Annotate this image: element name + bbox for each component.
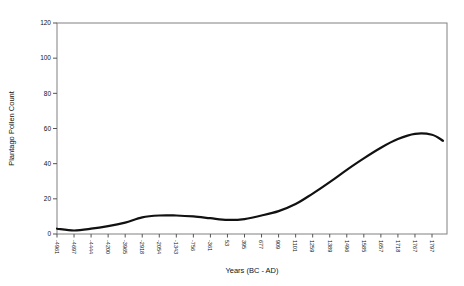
x-tick-label: -4444 [88, 240, 94, 254]
chart-container: 020406080100120-4961-4697-4444-4200-3965… [0, 0, 464, 286]
x-tick-label: -4697 [71, 240, 77, 254]
y-tick-label: 0 [47, 230, 51, 237]
x-tick-label: 1585 [361, 240, 367, 252]
x-tick-label: 395 [241, 240, 247, 249]
y-tick-label: 120 [40, 19, 51, 26]
pollen-curve [57, 133, 443, 230]
y-tick-label: 60 [44, 125, 52, 132]
x-tick-label: -756 [190, 240, 196, 251]
x-tick-label: 1657 [378, 240, 384, 252]
x-tick-label: 909 [275, 240, 281, 249]
x-axis-title: Years (BC - AD) [225, 266, 279, 275]
x-tick-label: -4200 [105, 240, 111, 254]
x-tick-label: -2918 [139, 240, 145, 254]
x-tick-label: 1259 [309, 240, 315, 252]
x-tick-label: 1101 [292, 240, 298, 252]
x-tick-label: 1767 [412, 240, 418, 252]
x-tick-label: 677 [258, 240, 264, 249]
x-tick-label: 1797 [429, 240, 435, 252]
x-tick-label: 1496 [344, 240, 350, 252]
y-tick-label: 80 [44, 90, 52, 97]
y-tick-label: 100 [40, 54, 51, 61]
x-tick-label: -2054 [156, 240, 162, 254]
x-tick-label: -1343 [173, 240, 179, 254]
plot-area: 020406080100120-4961-4697-4444-4200-3965… [0, 0, 464, 286]
y-tick-label: 20 [44, 195, 52, 202]
plot-generated: 020406080100120-4961-4697-4444-4200-3965… [40, 19, 447, 254]
x-tick-label: -3965 [122, 240, 128, 254]
y-tick-label: 40 [44, 160, 52, 167]
y-axis-title: Plantago Pollen Count [7, 90, 16, 166]
x-tick-label: 53 [224, 240, 230, 246]
plot-frame [57, 23, 447, 234]
x-tick-label: 1389 [327, 240, 333, 252]
x-tick-label: 1718 [395, 240, 401, 252]
x-tick-label: -361 [207, 240, 213, 251]
x-tick-label: -4961 [54, 240, 60, 254]
